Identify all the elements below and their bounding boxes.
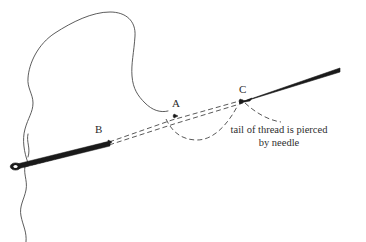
caption-line-2: by needle <box>199 137 359 150</box>
thread-tail-right-end <box>245 103 281 122</box>
caption-block: tail of thread is pierced by needle <box>199 124 359 150</box>
needle-group <box>10 68 340 170</box>
point-label-a: A <box>172 98 180 109</box>
needle-eye-hole <box>13 165 17 168</box>
marker-a <box>173 114 178 118</box>
needle-thread-diagram <box>0 0 366 242</box>
point-label-c: C <box>239 84 247 95</box>
fabric-outline-curve <box>24 12 168 163</box>
caption-line-1: tail of thread is pierced <box>199 124 359 137</box>
needle-shaft-left <box>17 141 110 169</box>
needle-shaft-right <box>239 68 340 103</box>
fabric-outline-lower-wave <box>21 163 27 242</box>
fabric-outline-upper-wave <box>28 134 29 157</box>
point-label-b: B <box>95 124 103 135</box>
